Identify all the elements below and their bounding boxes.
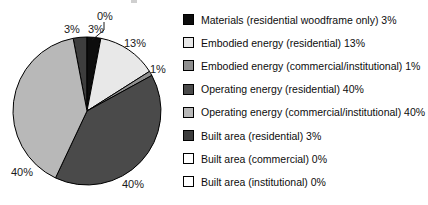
- legend-swatch-icon-built-area-institutional: [183, 176, 194, 187]
- legend-item-built-area-institutional: Built area (institutional) 0%: [183, 170, 428, 193]
- legend-item-operating-energy-commercial: Operating energy (commercial/institution…: [183, 101, 428, 124]
- legend-label-embodied-energy-commercial: Embodied energy (commercial/institutiona…: [201, 60, 420, 72]
- slice-label-built-area-residential: 3%: [64, 24, 80, 35]
- slice-label-built-area-commercial: 0%: [97, 11, 113, 22]
- legend-swatch-icon-built-area-residential: [183, 130, 194, 141]
- legend-swatch-icon-built-area-commercial: [183, 153, 194, 164]
- chart-legend: Materials (residential woodframe only) 3…: [183, 8, 428, 200]
- legend-label-built-area-institutional: Built area (institutional) 0%: [201, 176, 326, 188]
- legend-swatch-icon-embodied-energy-commercial: [183, 60, 194, 71]
- legend-label-operating-energy-commercial: Operating energy (commercial/institution…: [201, 106, 425, 118]
- legend-swatch-icon-materials: [183, 14, 194, 25]
- legend-swatch-icon-operating-energy-residential: [183, 84, 194, 95]
- slice-label-materials: 3%: [88, 24, 104, 35]
- legend-swatch-icon-embodied-energy-residential: [183, 37, 194, 48]
- slice-label-embodied-energy-residential: 13%: [124, 38, 146, 49]
- legend-item-built-area-commercial: Built area (commercial) 0%: [183, 147, 428, 170]
- legend-item-built-area-residential: Built area (residential) 3%: [183, 124, 428, 147]
- legend-label-embodied-energy-residential: Embodied energy (residential) 13%: [201, 37, 365, 49]
- pie-plot-area: 3% 3% 0% 13% 1% 40% 40%: [0, 0, 180, 205]
- legend-label-built-area-commercial: Built area (commercial) 0%: [201, 153, 327, 165]
- slice-label-embodied-energy-commercial: 1%: [150, 64, 166, 75]
- legend-label-materials: Materials (residential woodframe only) 3…: [201, 14, 397, 26]
- legend-label-built-area-residential: Built area (residential) 3%: [201, 130, 321, 142]
- legend-item-embodied-energy-commercial: Embodied energy (commercial/institutiona…: [183, 54, 428, 77]
- legend-item-embodied-energy-residential: Embodied energy (residential) 13%: [183, 31, 428, 54]
- legend-item-materials: Materials (residential woodframe only) 3…: [183, 8, 428, 31]
- legend-swatch-icon-operating-energy-commercial: [183, 107, 194, 118]
- slice-label-operating-energy-residential: 40%: [122, 179, 144, 190]
- legend-item-operating-energy-residential: Operating energy (residential) 40%: [183, 78, 428, 101]
- slice-label-operating-energy-commercial: 40%: [11, 167, 33, 178]
- pie-chart-figure: 3% 3% 0% 13% 1% 40% 40% Materials (resid…: [0, 0, 428, 205]
- legend-label-operating-energy-residential: Operating energy (residential) 40%: [201, 83, 364, 95]
